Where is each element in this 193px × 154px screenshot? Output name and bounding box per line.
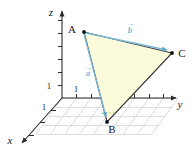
z-axis-unit-label: 1 bbox=[47, 81, 52, 91]
x-axis-label: x bbox=[7, 134, 13, 146]
vector-diagram-figure: z y x 1 1 1 A B C → a → b bbox=[0, 0, 193, 154]
point-c-dot bbox=[170, 51, 174, 55]
point-a-label: A bbox=[68, 23, 76, 35]
x-axis-unit-label: 1 bbox=[42, 102, 47, 112]
y-axis-label: y bbox=[177, 98, 183, 110]
point-b-label: B bbox=[108, 123, 115, 135]
vector-b-label: b bbox=[128, 25, 133, 35]
point-c-label: C bbox=[178, 47, 185, 59]
vector-b-label-group: → b bbox=[126, 19, 134, 35]
diagram-canvas: z y x 1 1 1 A B C → a → b bbox=[0, 0, 193, 154]
z-axis-ticks bbox=[58, 20, 63, 85]
vector-a-label-group: → a bbox=[84, 63, 92, 78]
vector-a-label: a bbox=[86, 68, 91, 78]
y-axis-unit-label: 1 bbox=[74, 84, 79, 94]
z-axis-label: z bbox=[48, 6, 54, 18]
triangle-abc bbox=[84, 32, 172, 122]
point-a-dot bbox=[82, 30, 86, 34]
